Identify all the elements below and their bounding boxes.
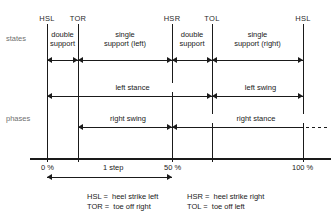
arrow-head-left [212, 93, 217, 99]
arrow-shaft [212, 60, 303, 61]
arrow-shaft [47, 177, 172, 178]
state-single-support-left-line2: support (left) [104, 39, 146, 48]
legend-entry-hsl: HSL = heel strike left [87, 192, 158, 202]
axis-measure-arrow-1-step [47, 174, 172, 181]
arrow-head-left [47, 93, 52, 99]
axis-tick-label-0: 0 % [41, 163, 54, 172]
state-double-support-2: double support [172, 30, 212, 48]
legend-eq-hsr: = [205, 192, 209, 201]
axis-baseline [30, 158, 331, 160]
axis-measure-label-1-step: 1 step [103, 163, 123, 172]
legend-eq-tor: = [105, 202, 109, 211]
arrow-head-left [212, 57, 217, 63]
phase-label-right-swing: right swing [86, 114, 170, 123]
legend-entry-tor: TOR = toe off right [87, 202, 151, 212]
phase-arrow-left-stance [47, 93, 212, 100]
legend-abbr-hsr: HSR [187, 192, 203, 201]
axis-tick-label-50: 50 % [164, 163, 181, 172]
arrow-head-right [298, 57, 303, 63]
arrow-shaft [172, 127, 303, 128]
gait-cycle-diagram: HSL TOR HSR TOL HSL states double suppor… [0, 0, 333, 224]
phase-label-right-stance: right stance [208, 114, 304, 123]
state-single-support-right-line1: single [248, 30, 268, 39]
state-arrow-double-support-2 [172, 57, 212, 64]
state-double-support-1-line1: double [51, 30, 74, 39]
legend-abbr-tor: TOR [87, 202, 103, 211]
state-single-support-right-line2: support (right) [234, 39, 281, 48]
state-arrow-double-support-1 [47, 57, 78, 64]
state-double-support-1-line2: support [50, 39, 75, 48]
axis-tick-label-100: 100 % [292, 163, 313, 172]
legend-entry-hsr: HSR = heel strike right [187, 192, 264, 202]
state-single-support-left: single support (left) [78, 30, 172, 48]
phase-label-left-stance: left stance [86, 83, 179, 92]
phase-right-stance-continuation [306, 127, 328, 128]
arrow-shaft [212, 96, 303, 97]
arrow-shaft [172, 60, 212, 61]
event-label-hsl-end: HSL [288, 14, 318, 23]
row-label-phases: phases [6, 114, 30, 123]
phase-label-left-swing: left swing [220, 83, 301, 92]
phase-arrow-right-swing [78, 124, 172, 131]
legend-eq-hsl: = [103, 192, 107, 201]
event-line-hsl-end [303, 24, 304, 162]
arrow-head-right [298, 93, 303, 99]
state-double-support-2-line2: support [179, 39, 204, 48]
event-label-tol: TOL [197, 14, 227, 23]
legend-abbr-hsl: HSL [87, 192, 101, 201]
arrow-head-left [172, 124, 177, 130]
legend-meaning-hsr: heel strike right [214, 192, 265, 201]
legend-meaning-tor: toe off right [113, 202, 150, 211]
arrow-head-left [47, 174, 52, 180]
row-label-states: states [6, 34, 26, 43]
legend-abbr-tol: TOL [187, 202, 201, 211]
state-double-support-2-line1: double [181, 30, 204, 39]
arrow-head-left [78, 124, 83, 130]
legend-meaning-tol: toe off left [212, 202, 245, 211]
arrow-head-left [172, 57, 177, 63]
legend-meaning-hsl: heel strike left [112, 192, 158, 201]
phase-arrow-right-stance [172, 124, 303, 131]
arrow-head-left [47, 57, 52, 63]
state-double-support-1: double support [47, 30, 78, 48]
arrow-shaft [78, 127, 172, 128]
phase-arrow-left-swing [212, 93, 303, 100]
event-label-tor: TOR [63, 14, 93, 23]
arrow-head-left [78, 57, 83, 63]
arrow-shaft [78, 60, 172, 61]
state-arrow-single-support-left [78, 57, 172, 64]
legend-eq-tol: = [203, 202, 207, 211]
event-label-hsr: HSR [157, 14, 187, 23]
arrow-head-right [167, 174, 172, 180]
arrow-shaft [47, 96, 212, 97]
state-single-support-left-line1: single [115, 30, 135, 39]
state-arrow-single-support-right [212, 57, 303, 64]
event-label-hsl-start: HSL [32, 14, 62, 23]
state-single-support-right: single support (right) [212, 30, 303, 48]
legend-entry-tol: TOL = toe off left [187, 202, 245, 212]
